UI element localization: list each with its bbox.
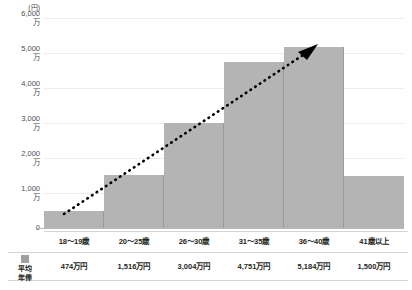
data-table: 平均 年俸 18〜19歳20〜25歳26〜30歳31〜35歳36〜40歳41歳以… (0, 231, 412, 290)
trend-arrow-line (64, 53, 306, 214)
row-header-average-salary: 平均 年俸 (8, 264, 42, 282)
trend-arrow-head (298, 44, 318, 60)
y-axis-tick-6000: 6,000万 (0, 10, 40, 27)
row-header-line2: 年俸 (18, 274, 32, 281)
category-label-1: 20〜25歳 (104, 237, 164, 247)
y-axis-tick-unit: 万 (0, 159, 40, 168)
y-axis-tick-4000: 4,000万 (0, 80, 40, 97)
legend-swatch (21, 255, 29, 263)
value-cell-3: 4,751万円 (224, 262, 284, 272)
y-axis-tick-unit: 万 (0, 19, 40, 28)
trend-arrow-annotation (44, 18, 404, 228)
category-label-2: 26〜30歳 (164, 237, 224, 247)
y-axis-tick-unit: 万 (0, 194, 40, 203)
category-label-0: 18〜19歳 (44, 237, 104, 247)
y-axis-tick-3000: 3,000万 (0, 115, 40, 132)
row-header-line1: 平均 (18, 265, 32, 272)
category-label-3: 31〜35歳 (224, 237, 284, 247)
value-cell-4: 5,184万円 (284, 262, 344, 272)
plot-area (44, 18, 404, 228)
y-axis-tick-unit: 万 (0, 124, 40, 133)
value-cell-5: 1,500万円 (344, 262, 404, 272)
value-cell-2: 3,004万円 (164, 262, 224, 272)
table-rule-top (44, 231, 408, 232)
y-axis-tick-1000: 1,000万 (0, 185, 40, 202)
y-axis-tick-5000: 5,000万 (0, 45, 40, 62)
salary-bar-chart: (円) 01,000万2,000万3,000万4,000万5,000万6,000… (0, 0, 412, 290)
x-axis-line (36, 228, 404, 229)
y-axis-tick-unit: 万 (0, 54, 40, 63)
table-rule-bottom (8, 280, 408, 281)
y-axis-tick-unit: 万 (0, 89, 40, 98)
category-label-4: 36〜40歳 (284, 237, 344, 247)
value-cell-0: 474万円 (44, 262, 104, 272)
y-axis-tick-2000: 2,000万 (0, 150, 40, 167)
category-label-5: 41歳以上 (344, 237, 404, 247)
value-cell-1: 1,516万円 (104, 262, 164, 272)
table-rule-mid (8, 252, 408, 253)
